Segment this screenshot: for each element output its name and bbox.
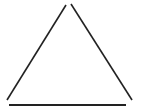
triangle-right-side <box>71 4 132 100</box>
triangle-diagram <box>0 0 141 111</box>
triangle-svg <box>0 0 141 111</box>
triangle-left-side <box>7 5 66 100</box>
